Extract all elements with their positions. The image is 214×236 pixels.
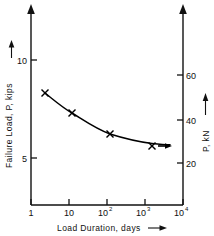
- x-tick-label-1000-mantissa: 10: [136, 208, 146, 218]
- x-tick-label-10: 10: [64, 208, 74, 218]
- x-tick-label-100-mantissa: 10: [98, 208, 108, 218]
- right-tick-label-40: 40: [186, 116, 196, 126]
- left-y-axis-title: Failure Load, P, kips: [4, 83, 14, 168]
- x-tick-label-10000-mantissa: 10: [174, 208, 184, 218]
- x-axis-title: Load Duration, days: [57, 223, 141, 233]
- left-tick-label-5: 5: [22, 154, 27, 164]
- left-tick-label-10: 10: [17, 56, 27, 66]
- x-tick-label-1: 1: [28, 208, 33, 218]
- right-tick-label-20: 20: [186, 159, 196, 169]
- right-y-axis-title: P, kN: [201, 130, 211, 152]
- chart-figure: 10 5 Failure Load, P, kips 60 40 20 P, k…: [0, 0, 214, 236]
- failure-load-vs-load-duration-chart: 10 5 Failure Load, P, kips 60 40 20 P, k…: [0, 0, 214, 236]
- right-tick-label-60: 60: [186, 71, 196, 81]
